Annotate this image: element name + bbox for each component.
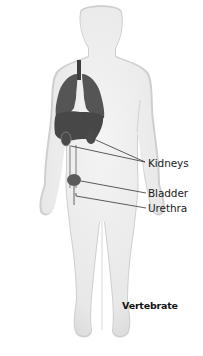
label-bladder: Bladder (148, 188, 188, 199)
kidney-right (86, 130, 96, 144)
bladder (67, 174, 81, 186)
label-urethra: Urethra (148, 203, 187, 214)
kidney-left (61, 132, 71, 146)
body-silhouette (39, 5, 164, 337)
figure-caption: Vertebrate (122, 301, 178, 311)
label-kidneys: Kidneys (148, 158, 189, 169)
trachea (77, 60, 81, 80)
